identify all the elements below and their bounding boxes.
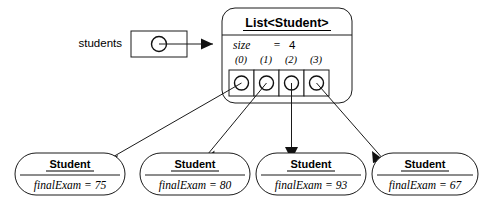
- list-size-value: 4: [289, 39, 296, 51]
- students-to-list-arrowhead: [201, 39, 213, 50]
- students-variable-label: students: [79, 37, 123, 49]
- student-object-0: Student finalExam = 75: [15, 153, 125, 195]
- list-size-equals: =: [274, 39, 281, 51]
- student-class-name-0: Student: [50, 158, 91, 170]
- cell-index-label-3: (3): [310, 54, 323, 66]
- list-class-name: List<Student>: [245, 16, 328, 30]
- cell-index-label-2: (2): [285, 54, 298, 66]
- student-class-name-2: Student: [291, 158, 332, 170]
- student-object-2: Student finalExam = 93: [256, 153, 366, 195]
- student-field-1: finalExam = 80: [159, 179, 232, 192]
- student-field-0: finalExam = 75: [34, 179, 107, 192]
- student-field-2: finalExam = 93: [275, 179, 348, 192]
- connector-cell-0-to-student-0: [104, 83, 242, 162]
- list-size-label: size: [233, 39, 250, 51]
- cell-index-label-0: (0): [235, 54, 248, 66]
- list-object-group: List<Student> size = 4 (0) (1) (2) (3): [222, 8, 352, 103]
- students-variable-group: students: [79, 31, 213, 57]
- cell-index-label-1: (1): [260, 54, 273, 66]
- student-object-3: Student finalExam = 67: [372, 153, 478, 195]
- student-class-name-1: Student: [175, 158, 216, 170]
- student-class-name-3: Student: [405, 158, 446, 170]
- student-field-3: finalExam = 67: [389, 179, 463, 192]
- object-reference-diagram: students List<Student> size = 4 (0) (1) …: [0, 0, 483, 219]
- student-object-1: Student finalExam = 80: [140, 153, 250, 195]
